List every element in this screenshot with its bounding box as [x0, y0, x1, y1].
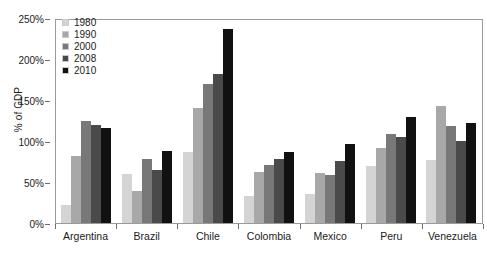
- bar: [335, 161, 345, 223]
- bar-group: [122, 20, 172, 223]
- bar: [61, 205, 71, 223]
- bar: [193, 108, 203, 223]
- bar: [81, 121, 91, 224]
- x-tick-mark: [361, 224, 362, 229]
- x-tick-mark: [483, 224, 484, 229]
- x-axis-label: Argentina: [55, 230, 116, 242]
- legend-label: 2000: [74, 41, 96, 52]
- bar: [223, 29, 233, 223]
- legend-label: 2010: [74, 65, 96, 76]
- bar-group: [305, 20, 355, 223]
- bar: [456, 141, 466, 223]
- bar: [122, 174, 132, 223]
- bar: [284, 152, 294, 223]
- y-tick-mark: [45, 183, 50, 184]
- legend-label: 2008: [74, 53, 96, 64]
- bar: [436, 106, 446, 223]
- bar: [132, 191, 142, 223]
- bar: [325, 175, 335, 223]
- bar: [254, 172, 264, 223]
- bar: [366, 166, 376, 223]
- plot-area: [55, 19, 483, 224]
- legend-swatch-icon: [62, 31, 69, 38]
- bar-group: [183, 20, 233, 223]
- y-tick-mark: [45, 19, 50, 20]
- x-tick-mark: [55, 224, 56, 229]
- x-axis-label: Mexico: [300, 230, 361, 242]
- legend-item: 2010: [62, 65, 96, 76]
- x-tick-mark: [116, 224, 117, 229]
- bar-chart: % of GDP 0%50%100%150%200%250% Argentina…: [0, 0, 487, 262]
- y-tick-mark: [45, 142, 50, 143]
- y-tick-label: 0%: [30, 219, 44, 230]
- legend-swatch-icon: [62, 67, 69, 74]
- bar: [162, 151, 172, 223]
- x-axis-labels: ArgentinaBrazilChileColombiaMexicoPeruVe…: [55, 230, 483, 242]
- bar: [345, 144, 355, 223]
- x-tick-mark: [422, 224, 423, 229]
- bar: [426, 160, 436, 223]
- legend-item: 2008: [62, 53, 96, 64]
- y-tick-mark: [45, 224, 50, 225]
- bar: [274, 159, 284, 223]
- x-axis-label: Venezuela: [422, 230, 483, 242]
- bar: [91, 125, 101, 223]
- bar: [446, 126, 456, 223]
- bar: [142, 159, 152, 223]
- y-tick-mark: [45, 101, 50, 102]
- bar: [376, 148, 386, 223]
- legend-swatch-icon: [62, 55, 69, 62]
- x-axis-label: Chile: [177, 230, 238, 242]
- y-tick-label: 250%: [18, 14, 44, 25]
- bar-group: [426, 20, 476, 223]
- legend-swatch-icon: [62, 19, 69, 26]
- bar: [101, 128, 111, 223]
- bar: [396, 137, 406, 223]
- legend-item: 1990: [62, 29, 96, 40]
- x-axis-label: Brazil: [116, 230, 177, 242]
- bar: [183, 152, 193, 223]
- bar-group: [244, 20, 294, 223]
- legend: 19801990200020082010: [62, 17, 96, 76]
- legend-swatch-icon: [62, 43, 69, 50]
- x-tick-mark: [238, 224, 239, 229]
- y-tick-label: 150%: [18, 96, 44, 107]
- legend-item: 2000: [62, 41, 96, 52]
- legend-label: 1980: [74, 17, 96, 28]
- bar: [386, 134, 396, 223]
- bar: [71, 156, 81, 223]
- bar: [466, 123, 476, 223]
- x-tick-mark: [177, 224, 178, 229]
- bar: [406, 117, 416, 223]
- bar: [203, 84, 213, 223]
- x-tick-mark: [300, 224, 301, 229]
- bar: [152, 170, 162, 223]
- x-axis-label: Colombia: [238, 230, 299, 242]
- y-tick-mark: [45, 60, 50, 61]
- legend-label: 1990: [74, 29, 96, 40]
- bar: [244, 196, 254, 223]
- legend-item: 1980: [62, 17, 96, 28]
- bar: [305, 194, 315, 223]
- bar-groups: [56, 20, 482, 223]
- bar: [264, 165, 274, 223]
- bar: [213, 74, 223, 223]
- y-tick-label: 50%: [24, 178, 44, 189]
- y-tick-label: 200%: [18, 55, 44, 66]
- bar: [315, 173, 325, 223]
- y-axis: 0%50%100%150%200%250%: [8, 0, 50, 262]
- x-axis-label: Peru: [361, 230, 422, 242]
- y-tick-label: 100%: [18, 137, 44, 148]
- bar-group: [366, 20, 416, 223]
